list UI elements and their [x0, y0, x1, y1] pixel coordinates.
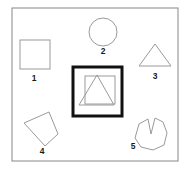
- shape-label-5: 5: [131, 141, 136, 151]
- figure-background: [0, 0, 191, 170]
- shape-label-1: 1: [32, 73, 37, 83]
- figure-canvas: 1 2 3 4 5: [0, 0, 191, 170]
- shape-label-3: 3: [153, 71, 158, 81]
- shape-label-2: 2: [101, 46, 106, 56]
- figure-root: 1 2 3 4 5: [0, 0, 191, 170]
- shape-label-4: 4: [40, 146, 45, 156]
